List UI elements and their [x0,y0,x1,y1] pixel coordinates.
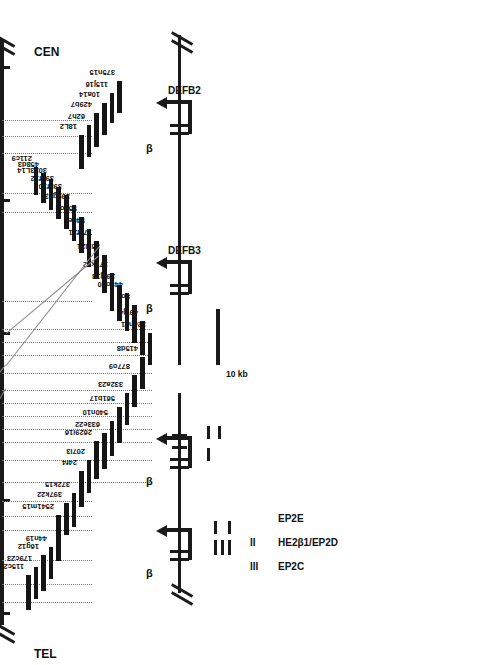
clone-bar-561b17 [117,407,122,443]
clone-bar-3023l14 [49,179,54,210]
clone-bar-351l21 [102,255,107,293]
clone-label-633e22: 633e22 [75,420,100,429]
cen-label: CEN [34,45,59,59]
clone-bar-2541m15 [56,515,61,561]
ep2-backbone [178,393,181,593]
defb3-exon-b [170,284,189,287]
splay-line-2 [6,256,99,334]
clone-bar-295j18 [117,285,122,321]
row-label-ep2e: EP2E [278,513,304,524]
clone-label-877o9: 877o9 [109,362,130,371]
marker-leader-4 [2,516,92,518]
defb2-beta-label: β [146,142,153,154]
clone-label-115j16: 115j16 [85,80,108,89]
clone-bar-497j4 [140,321,145,355]
clone-bar-877o9 [132,375,137,407]
clone-label-18l2: 18L2 [60,122,77,131]
clone-label-179c23: 179c23 [7,554,32,563]
clone-bar-115j16 [110,93,115,123]
defb2-exon-a [170,132,189,135]
clone-bar-211c9 [34,167,39,195]
clone-bar-398f10 [64,195,69,229]
defb2-gene-label: DEFB2 [168,85,201,96]
clone-bar-179c23 [34,567,39,599]
marker-leader-3 [2,530,92,532]
ep2-right-exon-c [172,446,187,449]
clone-bar-429b7 [94,113,99,147]
clone-bar-18l2 [79,135,84,169]
marker-leader-0 [2,602,92,604]
ep2-left-exon-b [170,550,189,553]
clone-label-415d8: 415d8 [117,344,138,353]
clone-bar-397k22 [64,503,69,535]
marker-leader-14 [2,355,152,357]
marker-leader-17 [2,301,92,303]
clone-label-429b7: 429b7 [71,100,92,109]
clone-label-372k15: 372k15 [45,480,70,489]
defb3-exon-a [170,292,189,295]
clone-bar-44n19 [49,547,54,579]
marker-leader-16 [2,329,152,331]
scale-bar-10kb [216,309,220,365]
clone-bar-8o7 [132,305,137,343]
ep2-right-beta-label: β [146,475,153,487]
clone-label-540n10: 540n10 [82,408,107,417]
clone-bar-458d3 [41,173,46,203]
clone-label-211c9: 211c9 [11,154,31,163]
clone-bar-399g23 [72,205,77,241]
tel-label: TEL [34,647,57,661]
defb-break [180,31,202,51]
clone-bar-375n15 [117,81,122,113]
clone-label-397k22: 397k22 [37,490,62,499]
clone-label-2629i16: 2629i16 [65,428,92,437]
axis-tick-3 [0,199,10,202]
marker-leader-6 [2,482,152,484]
figure-canvas: TEL CEN Mb cM cR 1234 7.6881010.51515161… [0,0,481,665]
ep2-right-exon-b [170,458,189,461]
clone-bar-449o20 [125,293,130,331]
marker-leader-8 [2,442,152,444]
marker-leader-13 [2,373,152,375]
clone-bar-324n11 [148,333,153,365]
clone-bar-10a14 [102,103,107,135]
clone-label-561b17: 561b17 [90,394,115,403]
defb3-beta-label: β [146,302,153,314]
clone-label-332a23: 332a23 [98,380,123,389]
clone-label-207l3: 207l3 [66,447,85,456]
clone-bar-24f4 [79,471,84,507]
clone-bar-540n10 [110,421,115,456]
ep2-break [180,583,202,603]
clone-label-44n19: 44n19 [26,534,47,543]
clone-bar-372k15 [72,493,77,527]
clone-label-375n15: 375n15 [90,68,115,77]
defb2-exon-b [170,124,189,127]
clone-bar-2629i16 [94,441,99,479]
roman-label-ii: II [250,537,256,548]
axis-break-tel [2,621,24,641]
splay-line-1 [6,247,99,366]
ep2-right-exon-a [170,466,189,469]
ep2-left-exon-a [170,558,189,561]
marker-leader-10 [2,416,152,418]
marker-leader-11 [2,403,152,405]
clone-bar-415d8 [140,357,145,389]
roman-label-iii: III [250,561,258,572]
clone-bar-398f12 [56,187,61,219]
axis-tick-4 [0,66,10,69]
scale-bar-label: 10 kb [226,369,248,379]
axis-tick-0 [0,612,10,615]
clone-label-62h7: 62h7 [68,112,85,121]
clone-label-2541m15: 2541m15 [23,502,55,511]
marker-leader-12 [2,390,152,392]
clone-label-24f4: 24f4 [62,458,77,467]
marker-leader-7 [2,460,152,462]
clone-bar-207l3 [87,460,92,493]
clone-label-16g12: 16g12 [18,542,39,551]
marker-leader-1 [2,584,92,586]
clone-bar-177k12 [110,273,115,311]
clone-bar-332a23 [125,393,130,425]
marker-leader-18 [2,212,92,214]
row-label-he2b1-ep2d: HE2β1/EP2D [278,537,338,548]
row-label-ep2c: EP2C [278,561,304,572]
clone-label-10a14: 10a14 [79,90,100,99]
